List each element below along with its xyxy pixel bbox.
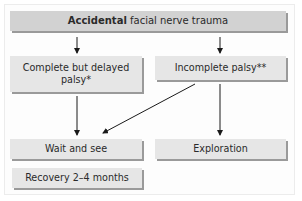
arrow-incomplete-to-wait <box>103 84 195 133</box>
arrows <box>0 0 302 201</box>
